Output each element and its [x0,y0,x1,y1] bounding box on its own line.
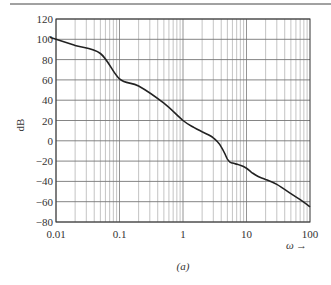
x-tick-labels: 0.010.1110100 [46,228,318,240]
y-tick-label: 0 [48,135,54,147]
y-tick-label: −80 [36,216,54,228]
y-tick-labels: 120100806040200−20−40−60−80 [36,13,54,228]
y-tick-label: 100 [37,33,54,45]
y-tick-label: 60 [42,74,54,86]
y-tick-label: −20 [36,155,54,167]
x-tick-label: 0.01 [46,228,65,240]
y-tick-label: 20 [42,115,54,127]
y-tick-label: 40 [42,94,54,106]
x-axis-arrow: → [296,239,307,251]
y-tick-label: 80 [42,54,54,66]
y-tick-label: 120 [37,13,54,25]
figure-caption: (a) [177,260,190,273]
x-tick-label: 0.1 [113,228,127,240]
x-axis-label: ω [286,239,294,251]
y-tick-label: −40 [36,175,54,187]
x-tick-label: 1 [180,228,186,240]
bode-magnitude-chart: 120100806040200−20−40−60−80 0.010.111010… [0,0,331,285]
y-tick-label: −60 [36,196,54,208]
y-axis-label: dB [14,119,26,132]
x-tick-label: 10 [241,228,253,240]
